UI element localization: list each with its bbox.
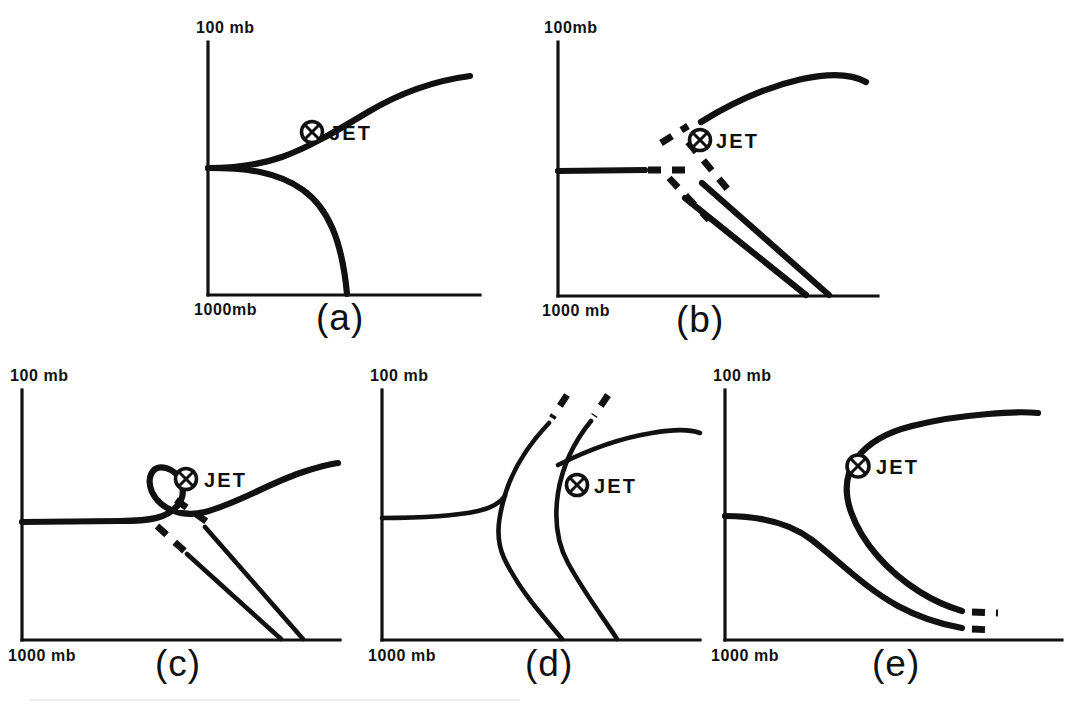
panel-d-left-boundary xyxy=(498,423,562,639)
panel-b-caption: (b) xyxy=(676,299,724,340)
panel-c-jet-label: JET xyxy=(204,469,247,491)
panel-e-jet-marker xyxy=(847,455,869,477)
panel-b-jet-marker xyxy=(690,130,711,151)
panel-e-jet-boundary-dash xyxy=(972,612,998,613)
panel-b-bottom-axis-label: 1000 mb xyxy=(542,302,610,319)
panel-b-jet-label: JET xyxy=(716,130,759,152)
panel-a: JET 100 mb 1000mb (a) xyxy=(194,19,480,338)
panel-c-jet-marker xyxy=(176,469,197,490)
panel-e: JET 100 mb 1000 mb (e) xyxy=(711,367,1062,684)
panel-d-right-boundary-dash xyxy=(594,395,608,416)
panel-a-jet-marker xyxy=(302,122,323,143)
panel-a-caption: (a) xyxy=(316,297,364,338)
panel-a-frontal-surface xyxy=(208,168,347,294)
panel-d-jet-marker xyxy=(567,475,588,496)
panel-b-front-line-upper xyxy=(702,183,829,295)
panel-c-bottom-axis-label: 1000 mb xyxy=(8,647,76,664)
figure-root: JET 100 mb 1000mb (a) xyxy=(0,0,1079,706)
panel-c-top-axis-label: 100 mb xyxy=(10,367,69,384)
panel-b-polar-tropopause xyxy=(558,170,645,171)
panel-b-break-upper-dash xyxy=(661,126,688,143)
panel-d-polar-tropopause xyxy=(382,496,505,518)
panel-a-top-axis-label: 100 mb xyxy=(196,19,255,36)
panel-d-bottom-axis-label: 1000 mb xyxy=(368,647,436,664)
panel-b-tropical-tropopause xyxy=(701,75,866,122)
panel-d-jet-label: JET xyxy=(594,475,637,497)
panel-e-upper-tropopause xyxy=(912,412,1038,426)
panel-d-left-boundary-dash xyxy=(552,395,567,418)
panel-a-jet-label: JET xyxy=(329,122,372,144)
panel-d-top-axis-label: 100 mb xyxy=(370,367,429,384)
schematic-figure: JET 100 mb 1000mb (a) xyxy=(0,0,1079,706)
panel-c-caption: (c) xyxy=(155,643,201,684)
panel-c-frontal-dash-lower xyxy=(157,526,190,556)
panel-e-lower-boundary-dash xyxy=(972,629,996,630)
panel-e-top-axis-label: 100 mb xyxy=(713,367,772,384)
panel-e-lower-boundary xyxy=(725,516,962,628)
panel-b-front-line-lower xyxy=(685,198,806,295)
panel-d-caption: (d) xyxy=(525,643,573,684)
panel-c: JET 100 mb 1000 mb (c) xyxy=(8,367,340,684)
panel-e-caption: (e) xyxy=(872,643,920,684)
panel-a-bottom-axis-label: 1000mb xyxy=(194,301,257,318)
panel-b: JET 100mb 1000 mb (b) xyxy=(542,19,878,340)
panel-d: JET 100 mb 1000 mb (d) xyxy=(368,367,700,684)
panel-e-bottom-axis-label: 1000 mb xyxy=(711,647,779,664)
panel-e-jet-label: JET xyxy=(876,456,919,478)
panel-b-top-axis-label: 100mb xyxy=(544,19,598,36)
